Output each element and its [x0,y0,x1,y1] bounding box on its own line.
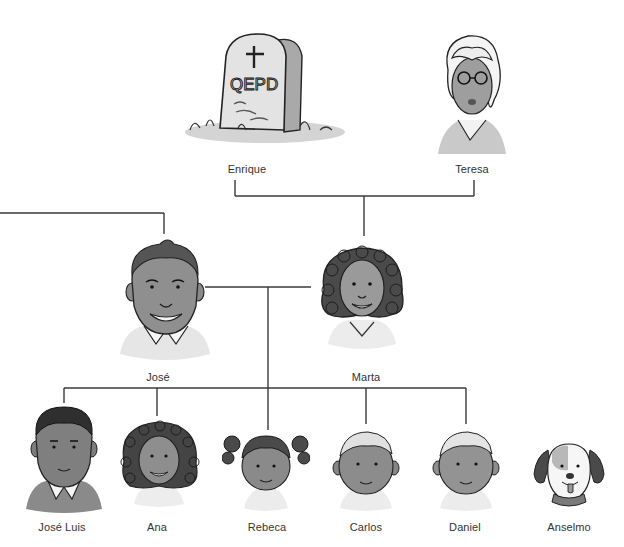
woman-curly-hair-portrait [314,240,410,352]
person-name: Rebeca [248,521,287,533]
girl-curly-hair-portrait [116,418,202,510]
person-name: Anselmo [547,521,591,533]
boy-portrait [430,428,502,512]
woman-glasses-portrait [432,30,512,158]
young-man-portrait [24,403,104,515]
person-name: José [146,371,170,383]
person-name: Marta [352,371,381,383]
tombstone-text: QEPD [230,75,278,94]
person-name: José Luis [38,521,85,533]
person-name: Teresa [455,163,489,175]
man-portrait [110,234,220,364]
person-name: Enrique [228,163,267,175]
boy-portrait [330,428,402,512]
person-name: Daniel [449,521,481,533]
family-tree-diagram: QEPD Enrique Teresa [0,0,624,547]
girl-pigtails-portrait [222,428,310,512]
person-name: Ana [147,521,167,533]
person-name: Carlos [350,521,382,533]
tombstone-icon: QEPD [180,26,350,146]
dog-portrait [532,440,606,512]
